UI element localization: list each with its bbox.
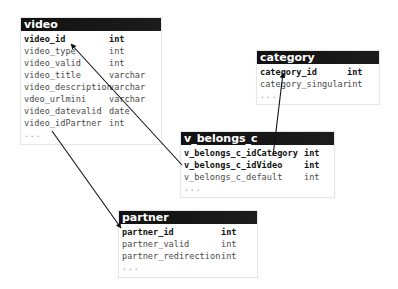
column-name: partner_valid bbox=[122, 238, 221, 250]
more-columns-ellipsis: ... bbox=[24, 129, 158, 141]
table-category[interactable]: category category_id int category_singul… bbox=[256, 50, 380, 105]
column-row: video_valid int bbox=[24, 57, 158, 69]
column-row: v_belongs_c_idVideo int bbox=[184, 159, 331, 171]
column-type: int bbox=[221, 250, 237, 262]
column-row: partner_valid int bbox=[122, 238, 254, 250]
column-type: int bbox=[109, 57, 125, 69]
column-row: category_singular int bbox=[260, 78, 376, 90]
column-type: varchar bbox=[109, 69, 145, 81]
column-name: video_idPartner bbox=[24, 117, 109, 129]
more-columns-ellipsis: ... bbox=[260, 90, 376, 102]
column-name: vdeo_urlmini bbox=[24, 93, 109, 105]
column-row: category_id int bbox=[260, 66, 376, 78]
column-type: int bbox=[221, 226, 237, 238]
column-row: video_idPartner int bbox=[24, 117, 158, 129]
column-row: video_id int bbox=[24, 33, 158, 45]
column-row: partner_redirection int bbox=[122, 250, 254, 262]
column-row: v_belongs_c_default int bbox=[184, 171, 331, 183]
column-name: video_datevalid bbox=[24, 105, 109, 117]
column-row: partner_id int bbox=[122, 226, 254, 238]
column-type: date bbox=[109, 105, 130, 117]
table-v-belongs-c[interactable]: v_belongs_c v_belongs_c_idCategory int v… bbox=[180, 131, 335, 198]
more-columns-ellipsis: ... bbox=[122, 262, 254, 274]
table-header-v-belongs-c: v_belongs_c bbox=[181, 132, 334, 145]
column-type: varchar bbox=[109, 81, 145, 93]
column-name: video_type bbox=[24, 45, 109, 57]
schema-canvas: video video_id int video_type int video_… bbox=[0, 0, 398, 289]
column-row: v_belongs_c_idCategory int bbox=[184, 147, 331, 159]
relation-partner-link bbox=[52, 131, 121, 228]
column-type: varchar bbox=[109, 93, 145, 105]
column-name: partner_redirection bbox=[122, 250, 221, 262]
column-type: int bbox=[304, 159, 320, 171]
column-name: video_id bbox=[24, 33, 109, 45]
column-type: int bbox=[304, 171, 320, 183]
column-type: int bbox=[347, 66, 363, 78]
more-columns-ellipsis: ... bbox=[184, 183, 331, 195]
column-type: int bbox=[109, 33, 125, 45]
column-type: int bbox=[347, 78, 363, 90]
column-name: video_title bbox=[24, 69, 109, 81]
table-video[interactable]: video video_id int video_type int video_… bbox=[20, 17, 162, 145]
column-row: video_description varchar bbox=[24, 81, 158, 93]
table-header-video: video bbox=[21, 18, 161, 31]
column-name: partner_id bbox=[122, 226, 221, 238]
column-row: video_title varchar bbox=[24, 69, 158, 81]
column-row: vdeo_urlmini varchar bbox=[24, 93, 158, 105]
table-header-category: category bbox=[257, 51, 379, 64]
column-name: video_description bbox=[24, 81, 109, 93]
table-header-partner: partner bbox=[119, 211, 257, 224]
column-name: category_id bbox=[260, 66, 347, 78]
column-row: video_type int bbox=[24, 45, 158, 57]
column-type: int bbox=[304, 147, 320, 159]
column-name: category_singular bbox=[260, 78, 347, 90]
column-name: video_valid bbox=[24, 57, 109, 69]
column-type: int bbox=[109, 45, 125, 57]
column-type: int bbox=[109, 117, 125, 129]
column-name: v_belongs_c_idCategory bbox=[184, 147, 304, 159]
column-row: video_datevalid date bbox=[24, 105, 158, 117]
table-partner[interactable]: partner partner_id int partner_valid int… bbox=[118, 210, 258, 278]
column-name: v_belongs_c_default bbox=[184, 171, 304, 183]
column-name: v_belongs_c_idVideo bbox=[184, 159, 304, 171]
column-type: int bbox=[221, 238, 237, 250]
